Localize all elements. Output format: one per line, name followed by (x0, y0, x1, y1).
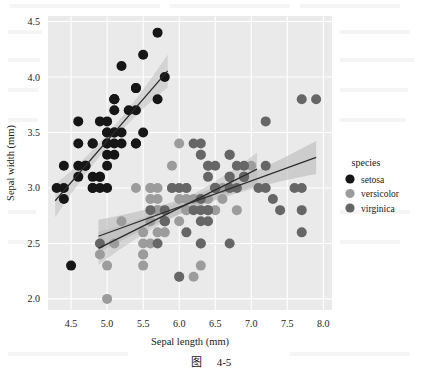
data-point (131, 139, 141, 149)
x-tick-label: 6.5 (209, 318, 222, 329)
data-point (117, 216, 127, 226)
data-point (102, 150, 112, 160)
data-point (59, 161, 69, 171)
data-point (261, 116, 271, 126)
data-point (73, 116, 83, 126)
data-point (95, 238, 105, 248)
data-point (261, 183, 271, 193)
data-point (225, 238, 235, 248)
data-point (297, 94, 307, 104)
data-point (174, 272, 184, 282)
data-point (102, 261, 112, 271)
data-point (160, 227, 170, 237)
data-point (225, 150, 235, 160)
data-point (297, 227, 307, 237)
x-tick-label: 7.0 (245, 318, 258, 329)
data-point (232, 205, 242, 215)
data-point (131, 83, 141, 93)
data-point (167, 161, 177, 171)
data-point (297, 183, 307, 193)
data-point (203, 172, 213, 182)
data-point (196, 238, 206, 248)
data-point (73, 139, 83, 149)
data-point (109, 139, 119, 149)
data-point (153, 194, 163, 204)
legend-title: species (352, 157, 381, 168)
data-point (268, 194, 278, 204)
data-point (88, 183, 98, 193)
data-point (174, 194, 184, 204)
data-point (109, 94, 119, 104)
y-tick-label: 2.0 (28, 293, 41, 304)
data-point (124, 105, 134, 115)
figure-container: 4.55.05.56.06.57.07.58.0 2.02.53.03.54.0… (0, 0, 421, 370)
scatter-plot-figure: 4.55.05.56.06.57.07.58.0 2.02.53.03.54.0… (0, 0, 421, 370)
legend-marker-virginica[interactable] (345, 203, 354, 212)
data-point (138, 238, 148, 248)
caption-label: 图 (191, 356, 202, 368)
data-point (196, 261, 206, 271)
data-point (88, 139, 98, 149)
data-point (95, 172, 105, 182)
data-point (297, 205, 307, 215)
data-point (131, 183, 141, 193)
data-point (203, 161, 213, 171)
y-tick-label: 2.5 (28, 238, 41, 249)
data-point (217, 194, 227, 204)
data-point (66, 261, 76, 271)
data-point (174, 216, 184, 226)
data-point (153, 183, 163, 193)
data-point (189, 272, 199, 282)
x-tick-label: 4.5 (65, 318, 78, 329)
x-tick-label: 5.5 (137, 318, 150, 329)
data-point (167, 183, 177, 193)
x-tick-label: 6.0 (173, 318, 186, 329)
data-point (196, 205, 206, 215)
x-tick-label: 7.5 (281, 318, 294, 329)
data-point (138, 227, 148, 237)
data-point (138, 50, 148, 60)
data-point (102, 183, 112, 193)
x-axis-label: Sepal length (mm) (151, 336, 230, 348)
data-point (153, 28, 163, 38)
legend-label-versicolor[interactable]: versicolor (361, 189, 400, 199)
data-point (160, 216, 170, 226)
data-point (153, 238, 163, 248)
data-point (95, 116, 105, 126)
data-point (181, 227, 191, 237)
data-point (138, 250, 148, 260)
caption-number: 4-5 (217, 356, 232, 368)
data-point (189, 139, 199, 149)
data-point (196, 150, 206, 160)
data-point (261, 161, 271, 171)
legend-marker-setosa[interactable] (345, 174, 354, 183)
legend-label-setosa[interactable]: setosa (361, 175, 385, 185)
y-tick-label: 4.5 (28, 16, 41, 27)
data-point (109, 105, 119, 115)
legend-marker-versicolor[interactable] (345, 189, 354, 198)
data-point (174, 139, 184, 149)
data-point (102, 161, 112, 171)
data-point (138, 127, 148, 137)
y-tick-label: 3.5 (28, 127, 41, 138)
data-point (153, 94, 163, 104)
data-point (232, 161, 242, 171)
data-point (311, 94, 321, 104)
y-tick-label: 3.0 (28, 182, 41, 193)
data-point (196, 216, 206, 226)
data-point (117, 61, 127, 71)
data-point (145, 205, 155, 215)
data-point (102, 294, 112, 304)
x-tick-label: 5.0 (101, 318, 114, 329)
data-point (138, 261, 148, 271)
plot-area (48, 16, 332, 310)
legend-label-virginica[interactable]: virginica (361, 204, 395, 214)
data-point (275, 205, 285, 215)
data-point (95, 250, 105, 260)
y-tick-label: 4.0 (28, 72, 41, 83)
y-axis-label: Sepal width (mm) (5, 125, 17, 201)
x-tick-label: 8.0 (317, 318, 330, 329)
